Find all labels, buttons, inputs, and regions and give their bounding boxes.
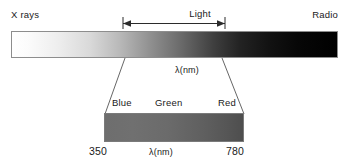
- band-label-red: Red: [218, 98, 236, 108]
- spectrum-gradient-bar: [11, 31, 338, 58]
- visible-light-bar: [104, 113, 244, 142]
- band-label-green: Green: [155, 98, 182, 108]
- spectrum-axis-label: λ(nm): [0, 66, 346, 75]
- band-label-blue: Blue: [112, 98, 132, 108]
- spectrum-figure: X rays Radio Light λ(nm) Blue Green Red …: [0, 0, 346, 166]
- wavelength-max-label: 780: [226, 146, 244, 157]
- spectrum-axis-label-text: λ(nm): [175, 65, 199, 75]
- light-range-arrow-icon: [118, 16, 230, 30]
- wavelength-min-label: 350: [89, 146, 107, 157]
- visible-axis-label: λ(nm): [149, 148, 173, 157]
